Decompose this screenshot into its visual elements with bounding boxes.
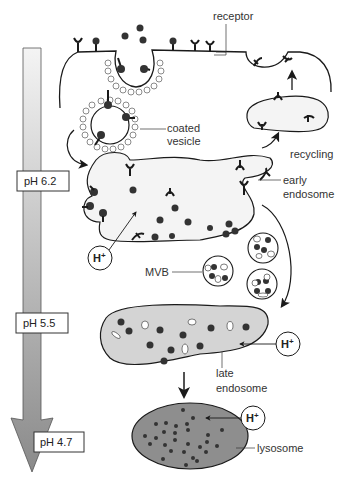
lysosome-text: lysosome	[257, 442, 303, 454]
vesicle-to-endosome-arrow	[67, 130, 86, 165]
receptor-label: receptor	[213, 10, 254, 55]
mvb-text: MVB	[145, 266, 169, 278]
recycling-endosome: recycling	[247, 72, 333, 160]
recycling-text: recycling	[290, 148, 333, 160]
svg-text:pH 5.5: pH 5.5	[23, 317, 55, 329]
multivesicular-bodies: MVB	[145, 233, 278, 299]
coated-pit	[105, 58, 164, 95]
lysosome: H+ lysosome	[132, 403, 303, 469]
ph-label-3: pH 4.7	[34, 432, 84, 452]
receptor-text: receptor	[213, 10, 254, 22]
coated-vesicle-text-1: coated	[167, 122, 200, 134]
coated-vesicle: coated vesicle	[80, 90, 201, 152]
free-ligands	[122, 25, 147, 44]
ph-gradient-arrow	[11, 48, 53, 472]
late-endosome-text-2: endosome	[216, 382, 267, 394]
late-endosome: H+ late endosome	[100, 305, 300, 394]
ph-label-2: pH 5.5	[16, 313, 68, 333]
early-endosome-text-2: endosome	[283, 188, 334, 200]
late-endosome-text-1: late	[216, 367, 234, 379]
svg-text:pH 4.7: pH 4.7	[40, 436, 72, 448]
coated-vesicle-text-2: vesicle	[167, 135, 201, 147]
early-endosome: early endosome	[82, 153, 334, 242]
svg-text:pH 6.2: pH 6.2	[24, 175, 56, 187]
early-endosome-text-1: early	[283, 174, 307, 186]
endocytosis-diagram: receptor coa	[0, 0, 353, 481]
ph-label-1: pH 6.2	[17, 171, 69, 191]
